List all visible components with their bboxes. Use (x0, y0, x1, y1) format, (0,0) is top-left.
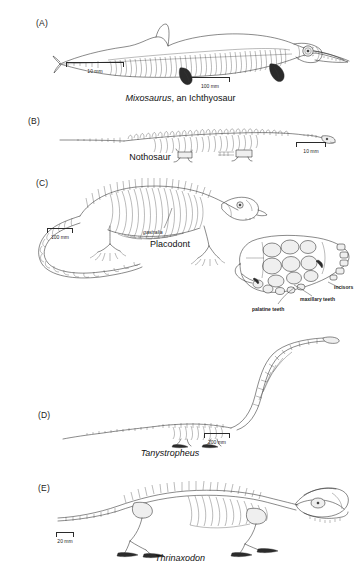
scalebar-b-10mm: 10 mm (296, 142, 326, 154)
thrinaxodon-skeleton (56, 463, 346, 563)
panel-e: (E) (0, 455, 361, 581)
panel-a: (A) (0, 0, 361, 115)
panel-a-caption-rest: , an Ichthyosaur (171, 93, 235, 103)
panel-c-caption-rest: Placodont (150, 239, 190, 249)
panel-c-caption: Placodont (115, 239, 225, 249)
panel-c: (C) (0, 172, 361, 337)
annotation-gastralia: gastralia (143, 229, 163, 235)
panel-b-caption-rest: Nothosaur (129, 152, 171, 162)
annotation-maxillary-teeth: maxillary teeth (300, 296, 335, 302)
scalebar-c-100mm: 100 mm (47, 228, 73, 240)
scalebar-a-10mm: 10 mm (66, 62, 124, 74)
panel-a-genus: Mixosaurus (125, 93, 171, 103)
scalebar-e-20mm: 20 mm (56, 532, 74, 544)
scalebar-a-100mm: 100 mm (190, 77, 230, 89)
panel-a-caption: Mixosaurus, an Ichthyosaur (0, 93, 361, 103)
panel-a-letter: (A) (36, 18, 48, 28)
panel-d-letter: (D) (38, 410, 50, 420)
tanystropheus-skeleton (55, 340, 355, 445)
figure-plate: (A) (0, 0, 361, 581)
annotation-palatine-teeth: palatine teeth (252, 306, 284, 312)
panel-d: (D) (0, 340, 361, 458)
panel-b: (B) (0, 112, 361, 174)
panel-e-genus: Thrinaxodon (155, 553, 205, 563)
panel-b-caption: Nothosaur (0, 152, 300, 162)
panel-e-letter: (E) (38, 483, 50, 493)
panel-e-caption: Thrinaxodon (120, 553, 240, 563)
annotation-incisors: incisors (334, 284, 353, 290)
scalebar-d-200mm: 200 mm (204, 433, 230, 445)
panel-b-letter: (B) (28, 116, 40, 126)
